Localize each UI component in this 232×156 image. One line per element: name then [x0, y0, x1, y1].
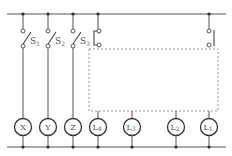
lamp-l1: L1 [201, 119, 218, 148]
lamp-l4: L4 [90, 119, 107, 148]
lamp-l2: L2 [168, 119, 185, 148]
switch-s2: S2 [46, 14, 65, 118]
lamp-y: Y [40, 119, 57, 148]
switch-4 [94, 14, 101, 47]
svg-text:L3: L3 [126, 123, 135, 132]
svg-text:S1: S1 [30, 36, 40, 47]
lamp-z: Z [65, 119, 82, 148]
svg-text:L2: L2 [170, 123, 179, 132]
switch-s3: S3 [71, 14, 90, 118]
switch-s1: S1 [21, 14, 40, 118]
circuit-diagram: S1 S2 S3 X [0, 0, 232, 156]
lamp-x: X [15, 119, 32, 148]
svg-text:X: X [20, 123, 26, 132]
svg-text:Y: Y [44, 123, 51, 132]
svg-text:S2: S2 [55, 36, 65, 47]
svg-text:L1: L1 [203, 123, 212, 132]
svg-text:S3: S3 [80, 36, 90, 47]
switch-5 [207, 14, 214, 47]
svg-text:L4: L4 [92, 123, 101, 132]
svg-text:Z: Z [70, 123, 76, 132]
hidden-region-box [89, 49, 218, 111]
lamp-l3: L3 [124, 119, 141, 148]
